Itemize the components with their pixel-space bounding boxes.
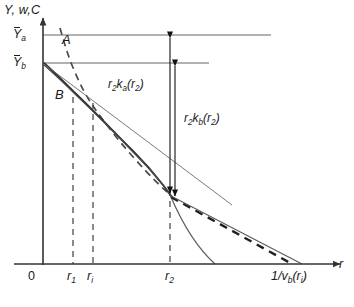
plot-area <box>0 0 354 307</box>
curve-label-A: A <box>62 33 71 46</box>
curve-label-A-text: A <box>62 32 71 47</box>
x-tick-label-r2: r2 <box>165 270 174 283</box>
annot-ka-k: k <box>117 77 123 91</box>
x-tick-r2-subscript: 2 <box>169 275 174 285</box>
y-axis-title: Y, w,C <box>4 4 40 17</box>
annot-ka-paren: (r <box>127 77 135 91</box>
curve-A-dashed <box>60 28 172 196</box>
y-tick-label-Yb: Yb <box>13 56 26 69</box>
annot-kb-k: k <box>193 111 199 125</box>
figure-container: Y, w,C r Ya Yb 0 r1 ri r2 1/vb(ri) A B r… <box>0 0 354 307</box>
tail-solid-shallow <box>171 196 302 264</box>
curve-label-B: B <box>55 88 64 101</box>
annot-ka-k-sub: a <box>123 84 128 93</box>
x-tick-label-ri: ri <box>87 270 93 283</box>
annot-ka-paren-sub: 2 <box>135 84 140 93</box>
annot-kb-r-sub: 2 <box>188 118 193 127</box>
annot-ka-close: ) <box>140 77 144 91</box>
x-tick-r1-subscript: 1 <box>71 275 76 285</box>
annot-kb-k-sub: b <box>199 118 204 127</box>
curve-label-B-text: B <box>55 87 64 102</box>
x-tick-ri-subscript: i <box>91 275 93 285</box>
annot-kb-close: ) <box>216 111 220 125</box>
y-tick-Yb-subscript: b <box>21 61 26 71</box>
x-tick-end-symbol: 1/v <box>271 269 288 283</box>
x-tick-end-tail: (r <box>292 269 300 283</box>
x-tick-label-end: 1/vb(ri) <box>271 270 307 283</box>
y-tick-label-Ya: Ya <box>13 28 26 41</box>
x-tick-end-tail-close: ) <box>303 269 307 283</box>
y-tick-Ya-subscript: a <box>21 33 26 43</box>
annot-kb-paren: (r <box>203 111 211 125</box>
tail-dashed-thick <box>171 197 292 264</box>
y-axis-title-text: Y, w,C <box>4 3 40 17</box>
x-axis-title: r <box>339 258 343 271</box>
annot-kb-paren-sub: 2 <box>211 118 216 127</box>
x-tick-end-subscript: b <box>288 275 293 285</box>
x-axis-title-text: r <box>339 257 343 271</box>
annot-ka-r-sub: 2 <box>112 84 117 93</box>
x-tick-label-r1: r1 <box>67 270 76 283</box>
x-tick-0-text: 0 <box>28 269 35 283</box>
annotation-r2-kb: r2kb(r2) <box>184 112 220 124</box>
x-tick-end-tail-subscript: i <box>301 275 303 285</box>
x-tick-label-0: 0 <box>28 270 35 283</box>
annotation-r2-ka: r2ka(r2) <box>108 78 144 90</box>
